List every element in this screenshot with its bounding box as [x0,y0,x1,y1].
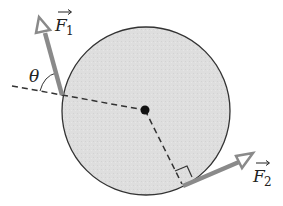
force-f1-shaft [45,33,62,95]
force-f1-arrowhead-icon [36,17,50,33]
f1-subscript: 1 [66,24,74,38]
dashed-line-of-action-extension [12,86,62,95]
theta-label: θ [29,66,39,86]
label-f1: F 1 [54,10,74,39]
label-f2: F 2 [252,161,272,190]
torque-diagram: F 1 F 2 θ [0,0,283,206]
center-pivot-dot [141,106,150,115]
force-f2-arrowhead-icon [236,153,253,168]
theta-arc [40,73,56,91]
f2-subscript: 2 [264,175,272,189]
